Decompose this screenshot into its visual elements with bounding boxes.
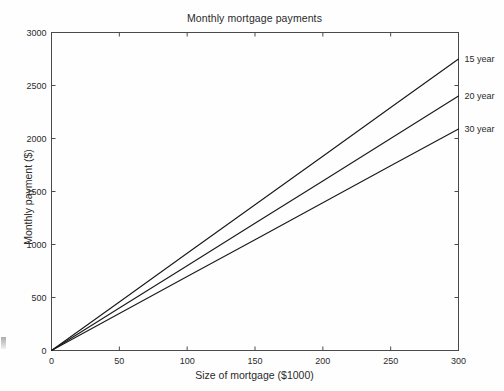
chart-figure: Monthly mortgage payments 05001000150020…	[0, 0, 504, 391]
plot-canvas	[0, 0, 504, 391]
series-line-30-year	[52, 129, 459, 351]
series-line-15-year	[52, 59, 459, 351]
x-tick-label: 100	[180, 356, 195, 366]
series-label-30-year: 30 year	[465, 124, 495, 134]
x-tick-label: 0	[49, 356, 54, 366]
tick-marks	[52, 33, 459, 351]
y-tick-label: 0	[12, 346, 47, 356]
x-tick-label: 150	[247, 356, 262, 366]
x-axis-title: Size of mortgage ($1000)	[51, 369, 458, 381]
y-tick-label: 500	[12, 293, 47, 303]
x-tick-label: 200	[315, 356, 330, 366]
y-tick-label: 2500	[12, 81, 47, 91]
y-axis-title: Monthly payment ($)	[22, 117, 34, 277]
data-series-lines	[52, 59, 459, 351]
axes-border	[52, 33, 459, 351]
x-tick-label: 250	[383, 356, 398, 366]
x-tick-label: 50	[114, 356, 124, 366]
series-label-20-year: 20 year	[465, 91, 495, 101]
series-line-20-year	[52, 96, 459, 350]
axes-frame	[52, 33, 459, 351]
x-tick-label: 300	[451, 356, 466, 366]
y-tick-label: 3000	[12, 28, 47, 38]
series-label-15-year: 15 year	[465, 54, 495, 64]
